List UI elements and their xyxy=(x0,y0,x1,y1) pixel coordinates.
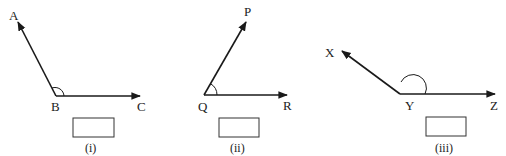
label-c: C xyxy=(137,99,146,114)
answer-box-ii[interactable] xyxy=(219,118,259,137)
ray-ba xyxy=(18,22,56,96)
angles-diagram: A B C (i) P Q R (ii) X Y Z (iii) xyxy=(0,0,506,156)
label-y: Y xyxy=(405,98,415,113)
angle-arc-q xyxy=(211,84,218,95)
label-a: A xyxy=(9,8,19,23)
answer-box-iii[interactable] xyxy=(426,117,466,136)
label-r: R xyxy=(283,98,292,113)
caption-iii: (iii) xyxy=(435,141,453,155)
figure-angle-xyz: X Y Z (iii) xyxy=(325,45,498,155)
label-b: B xyxy=(51,99,60,114)
caption-i: (i) xyxy=(85,141,96,155)
caption-ii: (ii) xyxy=(230,141,245,155)
label-p: P xyxy=(244,4,251,19)
figure-angle-abc: A B C (i) xyxy=(9,8,146,155)
label-x: X xyxy=(325,45,335,60)
label-q: Q xyxy=(198,99,208,114)
answer-box-i[interactable] xyxy=(73,118,114,137)
label-z: Z xyxy=(490,98,498,113)
ray-yx xyxy=(342,51,400,94)
figure-angle-pqr: P Q R (ii) xyxy=(198,4,292,155)
angle-arc-y xyxy=(401,75,426,94)
